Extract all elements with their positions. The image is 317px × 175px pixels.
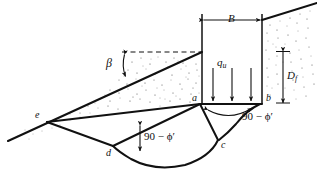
beta-angle-arc [123,55,125,77]
label-slope-angle-beta: β [106,57,112,69]
failure-line-e-d [47,122,113,146]
bearing-capacity-slope-figure: B Df β qu 90 − ϕ′ 90 − ϕ′ a b c d e [0,0,317,175]
failure-line-a-c [200,104,218,140]
label-point-e: e [35,110,39,120]
slope-ground-surface-line [8,52,202,141]
label-angle-left: 90 − ϕ′ [144,131,175,142]
label-point-a: a [192,93,197,103]
label-depth-Df-main: D [287,69,295,81]
figure-vector-canvas [0,0,317,175]
failure-curve-c-d-spiral [113,140,218,167]
label-point-c: c [221,140,225,150]
label-point-b: b [266,93,271,103]
label-depth-Df-sub: f [295,74,297,83]
soil-stipple-scatter [18,113,91,140]
label-depth-Df: Df [287,70,297,83]
soil-stipple-right [266,11,315,100]
label-load-qu-sub: u [223,61,227,70]
label-angle-right: 90 − ϕ′ [242,111,273,122]
label-load-qu: qu [217,57,226,70]
label-point-d: d [106,148,111,158]
label-width-B: B [228,13,235,24]
right-ground-surface-line [262,3,317,20]
